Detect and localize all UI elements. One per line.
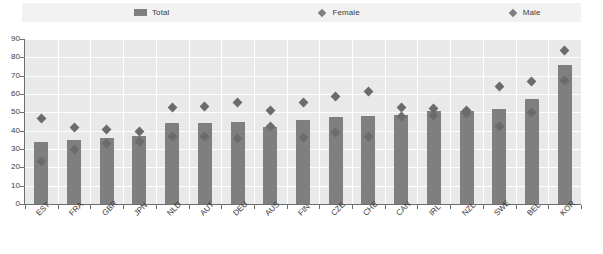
bar-est [34, 142, 48, 204]
legend-label-male: Male [523, 8, 541, 17]
gridline-vertical [483, 39, 484, 204]
chart-root: Total Female Male 0102030405060708090 ES… [0, 0, 603, 254]
marker-male-est [36, 114, 46, 124]
x-tick-mark [483, 205, 484, 209]
x-tick-mark [254, 205, 255, 209]
x-tick-mark [221, 205, 222, 209]
gridline-vertical [516, 39, 517, 204]
y-tick-mark [20, 112, 25, 113]
gridline-vertical [123, 39, 124, 204]
x-tick-mark [450, 205, 451, 209]
x-tick-mark [287, 205, 288, 209]
bar-che [361, 116, 375, 204]
gridline-vertical [385, 39, 386, 204]
y-tick-label: 40 [4, 127, 20, 135]
x-tick-mark [319, 205, 320, 209]
y-tick-label: 30 [4, 145, 20, 153]
x-tick-mark [548, 205, 549, 209]
y-axis-labels: 0102030405060708090 [0, 0, 20, 254]
gridline-horizontal [25, 39, 581, 40]
x-tick-mark [123, 205, 124, 209]
marker-male-bel [527, 76, 537, 86]
y-tick-mark [20, 149, 25, 150]
bar-swatch-icon [134, 9, 147, 16]
x-tick-mark [58, 205, 59, 209]
marker-male-can [396, 103, 406, 113]
x-tick-mark [156, 205, 157, 209]
marker-male-aus [265, 106, 275, 116]
x-tick-mark [385, 205, 386, 209]
y-tick-mark [20, 167, 25, 168]
gridline-vertical [58, 39, 59, 204]
x-tick-mark [516, 205, 517, 209]
marker-male-deu [233, 97, 243, 107]
y-tick-label: 70 [4, 72, 20, 80]
x-tick-mark [417, 205, 418, 209]
gridline-vertical [254, 39, 255, 204]
x-tick-mark [90, 205, 91, 209]
x-tick-mark [581, 205, 582, 209]
y-tick-mark [20, 186, 25, 187]
marker-male-gbr [102, 125, 112, 135]
diamond-marker-icon [318, 8, 326, 16]
legend-label-female: Female [332, 8, 359, 17]
y-tick-label: 80 [4, 53, 20, 61]
gridline-horizontal [25, 57, 581, 58]
legend-item-female: Female [319, 8, 359, 17]
y-tick-mark [20, 76, 25, 77]
y-tick-mark [20, 131, 25, 132]
y-tick-label: 60 [4, 90, 20, 98]
diamond-marker-icon [508, 8, 516, 16]
marker-male-fin [298, 97, 308, 107]
marker-male-jpn [135, 127, 145, 137]
gridline-vertical [548, 39, 549, 204]
y-tick-mark [20, 39, 25, 40]
gridline-vertical [221, 39, 222, 204]
gridline-vertical [156, 39, 157, 204]
x-tick-mark [352, 205, 353, 209]
y-axis-line [24, 39, 25, 205]
x-tick-mark [189, 205, 190, 209]
gridline-vertical [417, 39, 418, 204]
marker-male-swe [494, 82, 504, 92]
x-tick-label-fin: FIN [297, 203, 312, 218]
y-tick-mark [20, 94, 25, 95]
y-tick-mark [20, 57, 25, 58]
marker-male-nld [167, 103, 177, 113]
bar-aus [263, 127, 277, 204]
marker-male-kor [560, 45, 570, 55]
bar-nzl [460, 111, 474, 205]
gridline-vertical [319, 39, 320, 204]
gridline-vertical [287, 39, 288, 204]
bar-kor [558, 65, 572, 204]
marker-male-aut [200, 102, 210, 112]
legend-item-male: Male [510, 8, 541, 17]
y-tick-label: 20 [4, 163, 20, 171]
plot-area [25, 39, 581, 204]
x-tick-mark [25, 205, 26, 209]
bar-can [394, 115, 408, 204]
bar-irl [427, 111, 441, 204]
chart-legend: Total Female Male [22, 3, 581, 22]
gridline-vertical [352, 39, 353, 204]
gridline-horizontal [25, 76, 581, 77]
gridline-horizontal [25, 94, 581, 95]
y-tick-label: 50 [4, 108, 20, 116]
gridline-vertical [189, 39, 190, 204]
legend-label-total: Total [152, 8, 169, 17]
x-tick-label-irl: IRL [428, 203, 442, 217]
gridline-vertical [90, 39, 91, 204]
gridline-vertical [450, 39, 451, 204]
y-tick-label: 10 [4, 182, 20, 190]
y-tick-label: 0 [4, 200, 20, 208]
y-tick-label: 90 [4, 35, 20, 43]
legend-item-total: Total [134, 8, 169, 17]
